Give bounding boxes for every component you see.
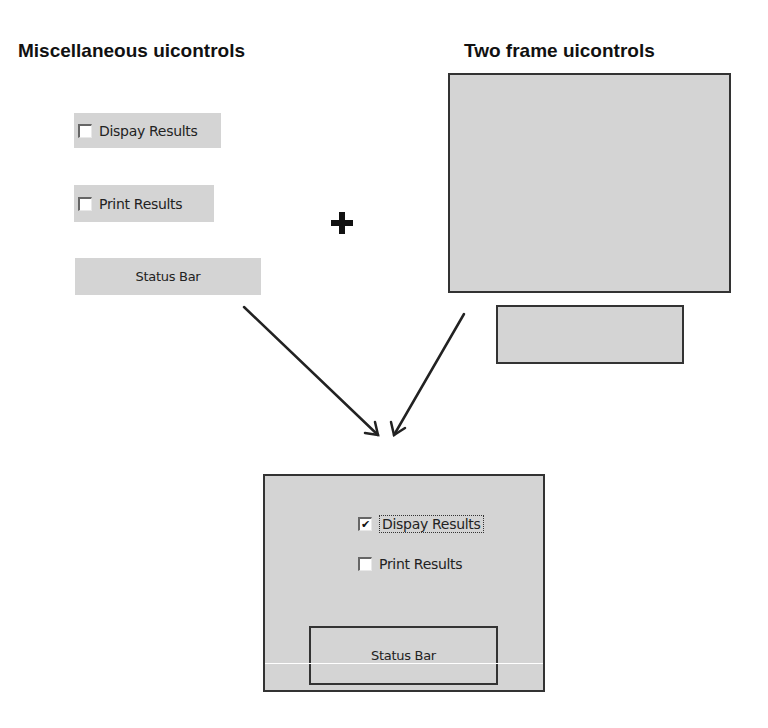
result-display-results-label: Dispay Results xyxy=(379,515,484,533)
right-arrow-line xyxy=(394,314,464,435)
result-figure-frame: ✔ Dispay Results Print Results Status Ba… xyxy=(263,474,545,692)
result-status-bar: Status Bar xyxy=(309,626,498,685)
result-status-bar-label: Status Bar xyxy=(371,648,436,663)
result-display-results-checkbox[interactable]: ✔ Dispay Results xyxy=(358,515,484,533)
result-print-results-label: Print Results xyxy=(379,556,462,572)
white-scan-line xyxy=(265,663,543,664)
checkbox-checked-icon[interactable]: ✔ xyxy=(358,517,372,531)
left-arrow-line xyxy=(244,307,378,435)
result-print-results-checkbox[interactable]: Print Results xyxy=(358,556,462,572)
checkbox-unchecked-icon[interactable] xyxy=(358,557,372,571)
